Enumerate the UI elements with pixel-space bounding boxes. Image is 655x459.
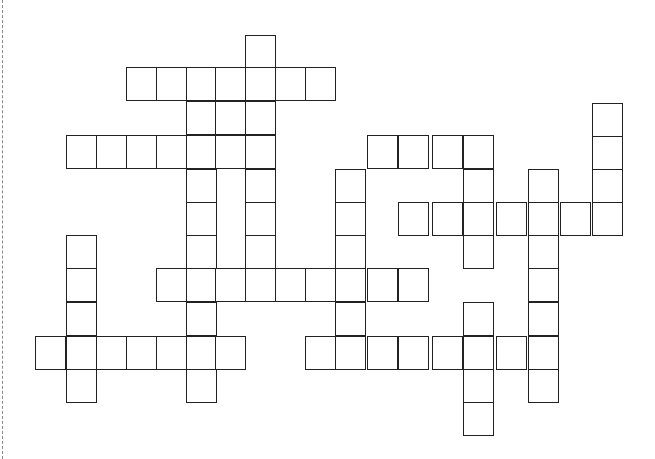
crossword-cell[interactable] (186, 101, 217, 135)
crossword-cell[interactable] (592, 202, 623, 236)
crossword-cell[interactable] (398, 202, 429, 236)
crossword-cell[interactable] (592, 136, 623, 170)
crossword-cell[interactable] (432, 202, 463, 236)
crossword-cell[interactable] (528, 336, 559, 370)
crossword-cell[interactable] (245, 235, 276, 269)
crossword-cell[interactable] (245, 67, 276, 101)
crossword-grid (0, 0, 655, 459)
crossword-cell[interactable] (156, 336, 187, 370)
crossword-cell[interactable] (156, 135, 187, 169)
crossword-cell[interactable] (367, 135, 398, 169)
crossword-cell[interactable] (463, 402, 494, 436)
crossword-cell[interactable] (496, 202, 527, 236)
crossword-cell[interactable] (66, 302, 97, 336)
crossword-cell[interactable] (463, 135, 494, 169)
crossword-cell[interactable] (398, 135, 429, 169)
crossword-cell[interactable] (156, 67, 187, 101)
crossword-cell[interactable] (186, 169, 217, 203)
crossword-cell[interactable] (528, 235, 559, 269)
crossword-cell[interactable] (186, 336, 217, 370)
crossword-cell[interactable] (186, 67, 217, 101)
crossword-cell[interactable] (66, 268, 97, 302)
crossword-cell[interactable] (186, 202, 217, 236)
crossword-cell[interactable] (463, 169, 494, 203)
crossword-cell[interactable] (592, 103, 623, 137)
crossword-cell[interactable] (305, 336, 336, 370)
crossword-cell[interactable] (335, 336, 366, 370)
crossword-cell[interactable] (463, 369, 494, 403)
crossword-cell[interactable] (275, 67, 306, 101)
crossword-cell[interactable] (215, 336, 246, 370)
crossword-cell[interactable] (398, 268, 429, 302)
crossword-cell[interactable] (126, 336, 157, 370)
crossword-cell[interactable] (66, 336, 97, 370)
crossword-cell[interactable] (432, 336, 463, 370)
crossword-cell[interactable] (186, 235, 217, 269)
crossword-cell[interactable] (215, 268, 246, 302)
crossword-cell[interactable] (432, 135, 463, 169)
crossword-cell[interactable] (398, 336, 429, 370)
crossword-cell[interactable] (528, 268, 559, 302)
crossword-cell[interactable] (215, 135, 246, 169)
crossword-cell[interactable] (463, 235, 494, 269)
crossword-cell[interactable] (275, 268, 306, 302)
crossword-cell[interactable] (66, 369, 97, 403)
crossword-cell[interactable] (186, 302, 217, 336)
crossword-cell[interactable] (335, 302, 366, 336)
crossword-cell[interactable] (528, 169, 559, 203)
crossword-cell[interactable] (305, 268, 336, 302)
crossword-cell[interactable] (126, 135, 157, 169)
crossword-cell[interactable] (335, 202, 366, 236)
crossword-cell[interactable] (245, 202, 276, 236)
crossword-cell[interactable] (528, 369, 559, 403)
crossword-cell[interactable] (335, 235, 366, 269)
crossword-cell[interactable] (560, 202, 591, 236)
crossword-cell[interactable] (528, 202, 559, 236)
crossword-cell[interactable] (186, 268, 217, 302)
crossword-cell[interactable] (463, 302, 494, 336)
crossword-cell[interactable] (463, 336, 494, 370)
crossword-cell[interactable] (156, 268, 187, 302)
crossword-cell[interactable] (305, 67, 336, 101)
crossword-cell[interactable] (215, 101, 246, 135)
crossword-cell[interactable] (245, 135, 276, 169)
crossword-cell[interactable] (186, 369, 217, 403)
crossword-cell[interactable] (35, 336, 66, 370)
crossword-cell[interactable] (215, 67, 246, 101)
crossword-cell[interactable] (335, 268, 366, 302)
crossword-cell[interactable] (463, 202, 494, 236)
crossword-cell[interactable] (245, 268, 276, 302)
crossword-cell[interactable] (335, 169, 366, 203)
crossword-cell[interactable] (367, 268, 398, 302)
crossword-cell[interactable] (592, 169, 623, 203)
crossword-cell[interactable] (126, 67, 157, 101)
crossword-cell[interactable] (66, 235, 97, 269)
crossword-cell[interactable] (66, 135, 97, 169)
crossword-cell[interactable] (245, 169, 276, 203)
crossword-cell[interactable] (245, 101, 276, 135)
crossword-cell[interactable] (367, 336, 398, 370)
crossword-cell[interactable] (245, 35, 276, 69)
crossword-cell[interactable] (96, 135, 127, 169)
crossword-cell[interactable] (496, 336, 527, 370)
crossword-cell[interactable] (528, 302, 559, 336)
crossword-cell[interactable] (186, 135, 217, 169)
crossword-cell[interactable] (96, 336, 127, 370)
